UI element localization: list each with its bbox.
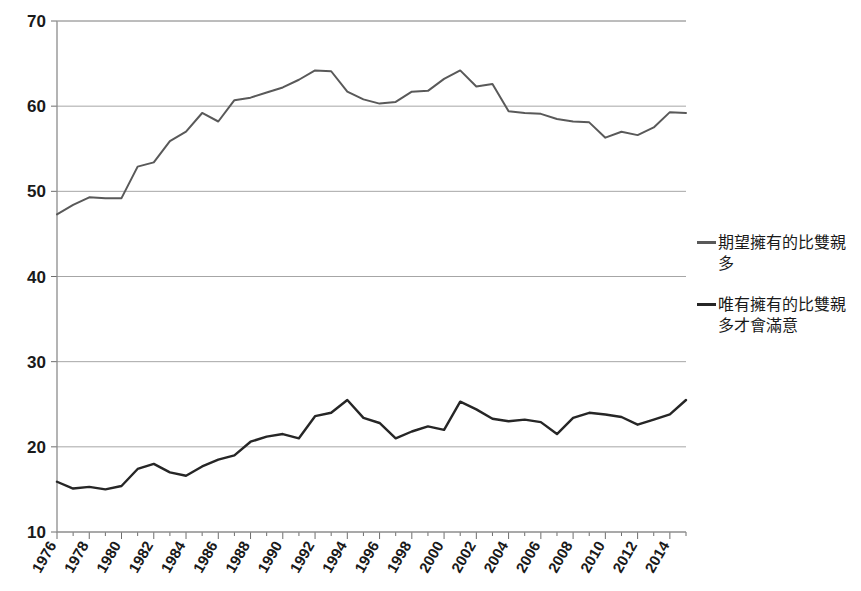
x-tick-label-1976: 1976 <box>28 538 59 575</box>
y-tick-label-50: 50 <box>27 182 46 201</box>
x-tick-label-2010: 2010 <box>577 538 608 575</box>
y-axis-tick-labels: 10203040506070 <box>27 12 46 542</box>
x-tick-label-2012: 2012 <box>609 538 640 575</box>
y-tick-label-40: 40 <box>27 268 46 287</box>
data-series <box>57 70 686 489</box>
gridlines <box>57 21 686 447</box>
x-tick-label-1982: 1982 <box>125 538 156 575</box>
x-tick-label-1980: 1980 <box>93 538 124 575</box>
x-tick-label-2002: 2002 <box>448 538 479 575</box>
x-tick-label-2008: 2008 <box>544 538 575 575</box>
legend-entry-only-satisfied-if-more: 唯有擁有的比雙親多才會滿意 <box>697 294 857 336</box>
chart-legend: 期望擁有的比雙親多 唯有擁有的比雙親多才會滿意 <box>697 232 857 356</box>
y-tick-label-30: 30 <box>27 353 46 372</box>
series-line-1 <box>57 400 686 489</box>
x-tick-label-2014: 2014 <box>641 537 673 575</box>
legend-line-swatch-1 <box>697 303 716 306</box>
x-tick-label-1992: 1992 <box>286 538 317 575</box>
y-tick-marks <box>51 21 57 532</box>
legend-line-swatch-0 <box>697 241 716 244</box>
x-tick-label-2000: 2000 <box>415 538 446 575</box>
legend-label-1: 唯有擁有的比雙親多才會滿意 <box>718 294 854 336</box>
x-axis-tick-labels: 1976197819801982198419861988199019921994… <box>28 537 673 575</box>
x-tick-label-1998: 1998 <box>383 538 414 575</box>
x-tick-label-1988: 1988 <box>222 538 253 575</box>
line-chart: 10203040506070 1976197819801982198419861… <box>0 0 861 591</box>
x-tick-label-1994: 1994 <box>318 537 350 575</box>
y-tick-label-20: 20 <box>27 438 46 457</box>
y-tick-label-60: 60 <box>27 97 46 116</box>
x-tick-label-1986: 1986 <box>189 538 220 575</box>
x-tick-label-1996: 1996 <box>351 538 382 575</box>
x-tick-label-2004: 2004 <box>480 537 512 575</box>
legend-label-0: 期望擁有的比雙親多 <box>718 232 854 274</box>
x-tick-label-1978: 1978 <box>60 538 91 575</box>
x-tick-label-2006: 2006 <box>512 538 543 575</box>
x-tick-label-1990: 1990 <box>254 538 285 575</box>
legend-entry-expect-more: 期望擁有的比雙親多 <box>697 232 857 274</box>
y-tick-label-70: 70 <box>27 12 46 31</box>
series-line-0 <box>57 70 686 214</box>
x-tick-marks <box>57 532 686 539</box>
x-tick-label-1984: 1984 <box>157 537 189 575</box>
